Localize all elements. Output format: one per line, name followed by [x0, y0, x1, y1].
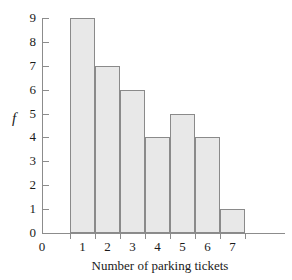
x-axis-tick: [70, 234, 71, 239]
bar: [70, 18, 95, 233]
x-axis-tick: [220, 234, 221, 239]
y-axis-tick: [43, 90, 49, 91]
x-tick-label: 2: [96, 240, 120, 253]
bar: [170, 114, 195, 233]
x-axis-tick: [245, 234, 246, 239]
bar: [195, 137, 220, 233]
x-axis-tick: [95, 234, 96, 239]
y-tick-label: 8: [22, 35, 36, 48]
y-tick-label: 2: [22, 178, 36, 191]
y-tick-label: 1: [22, 202, 36, 215]
x-tick-label: 4: [146, 240, 170, 253]
y-tick-label: 4: [22, 130, 36, 143]
x-tick-label: 6: [196, 240, 220, 253]
bar: [220, 209, 245, 233]
x-axis-tick: [145, 234, 146, 239]
x-tick-label: 1: [71, 240, 95, 253]
x-tick-label: 3: [121, 240, 145, 253]
x-axis-line: [42, 233, 285, 234]
y-axis-tick: [43, 114, 49, 115]
x-tick-label: 5: [171, 240, 195, 253]
y-axis-title: f: [12, 111, 16, 126]
y-axis-line: [42, 18, 43, 233]
bar: [145, 137, 170, 233]
x-tick-label: 7: [221, 240, 245, 253]
x-tick-label-zero: 0: [30, 240, 54, 253]
y-axis-tick: [43, 18, 49, 19]
x-axis-tick: [170, 234, 171, 239]
bar: [95, 66, 120, 233]
y-axis-tick: [43, 161, 49, 162]
y-tick-label: 9: [22, 11, 36, 24]
x-axis-tick: [120, 234, 121, 239]
y-tick-label: 5: [22, 107, 36, 120]
bar: [120, 90, 145, 233]
y-tick-label: 3: [22, 154, 36, 167]
x-axis-tick: [195, 234, 196, 239]
y-tick-label: 7: [22, 59, 36, 72]
histogram-figure: f 0123456789 1234567 0 Number of parking…: [0, 0, 292, 280]
y-axis-tick: [43, 209, 49, 210]
bars-area: [70, 18, 245, 233]
x-axis-title: Number of parking tickets: [0, 259, 292, 272]
y-tick-label: 0: [22, 226, 36, 239]
y-axis-tick: [43, 42, 49, 43]
y-axis-tick: [43, 185, 49, 186]
y-axis-tick: [43, 66, 49, 67]
y-axis-tick: [43, 137, 49, 138]
y-tick-label: 6: [22, 83, 36, 96]
